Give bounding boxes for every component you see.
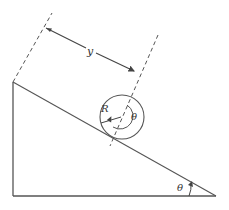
cylinder	[100, 95, 144, 139]
reference-dashed-line	[13, 13, 52, 82]
radius-label: R	[100, 103, 109, 114]
incline-diagram: y R θ θ	[0, 0, 229, 210]
incline-angle-label: θ	[177, 182, 183, 193]
cylinder-dashed-line	[110, 35, 158, 146]
inclined-plane	[13, 82, 216, 196]
distance-label: y	[86, 45, 94, 58]
incline-angle-marker	[188, 181, 193, 196]
rotation-angle-label: θ	[131, 111, 137, 122]
